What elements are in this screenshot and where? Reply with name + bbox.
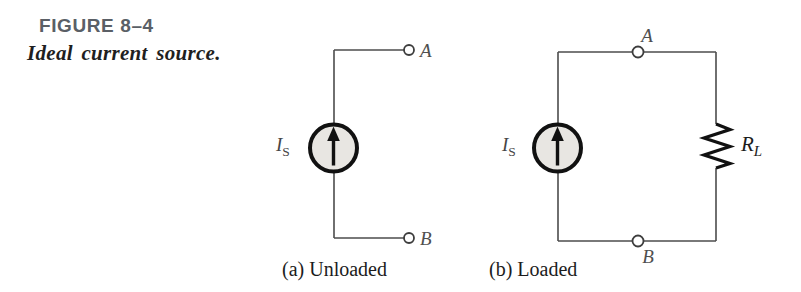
- circuit-b: A B IS RL: [501, 25, 762, 267]
- terminal-a-node: [633, 47, 644, 58]
- terminal-a-label: A: [639, 25, 653, 46]
- circuit-diagrams: A B IS A B IS RL: [0, 0, 801, 292]
- terminal-b-label: B: [642, 246, 654, 267]
- source-current-label: IS: [275, 134, 290, 159]
- terminal-b-node: [404, 233, 414, 243]
- load-resistor-label: RL: [740, 132, 762, 159]
- terminal-a-node: [404, 45, 414, 55]
- caption-a: (a) Unloaded: [282, 258, 387, 281]
- figure-8-4: FIGURE 8–4 Ideal current source. A B IS: [0, 0, 801, 292]
- caption-b: (b) Loaded: [489, 258, 577, 281]
- terminal-b-label: B: [420, 228, 432, 249]
- terminal-b-node: [633, 236, 644, 247]
- resistor-icon: [704, 124, 730, 168]
- terminal-a-label: A: [418, 40, 432, 61]
- source-current-label: IS: [501, 134, 516, 159]
- circuit-a: A B IS: [275, 40, 432, 249]
